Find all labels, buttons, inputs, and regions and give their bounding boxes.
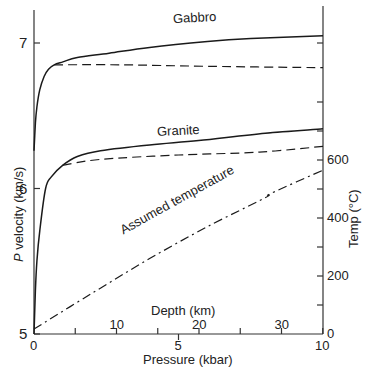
depth-tick-label: 20 xyxy=(192,318,206,331)
series-granite-dashed xyxy=(63,146,323,165)
granite-label: Granite xyxy=(157,123,200,138)
x-tick-label: 5 xyxy=(175,339,182,352)
velocity-axis-title-p: P xyxy=(11,253,26,262)
axes xyxy=(34,6,323,340)
y-right-tick-label: 200 xyxy=(327,269,349,282)
y-right-tick-label: 600 xyxy=(327,153,349,166)
depth-tick-label: 10 xyxy=(110,318,124,331)
velocity-axis-title: P velocity (km/s) xyxy=(12,167,25,262)
depth-axis-title: Depth (km) xyxy=(151,304,215,317)
pressure-axis-title: Pressure (kbar) xyxy=(143,353,233,366)
x-tick-label: 10 xyxy=(315,339,329,352)
series-gabbro-dashed xyxy=(54,65,323,68)
y-tick-label: 7 xyxy=(19,35,27,50)
velocity-axis-title-rest: velocity (km/s) xyxy=(11,167,26,254)
x-tick-label: 0 xyxy=(30,339,37,352)
gabbro-label: Gabbro xyxy=(173,10,217,25)
temp-axis-title: Temp (°C) xyxy=(347,189,360,248)
depth-tick-label: 30 xyxy=(275,318,289,331)
y-tick-label: 5 xyxy=(19,326,27,341)
series-lines xyxy=(34,36,323,334)
